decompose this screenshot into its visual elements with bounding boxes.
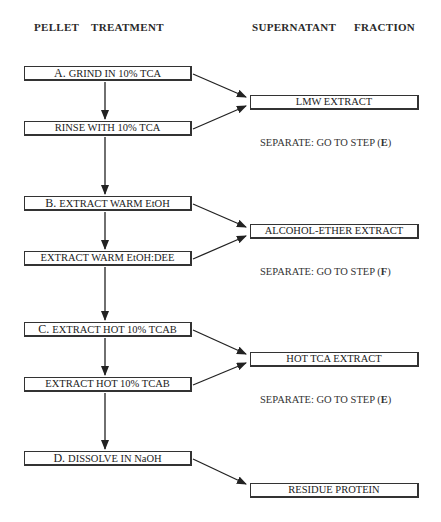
extract-etoh-dee-box: EXTRACT WARM EtOH:DEE [24, 251, 192, 266]
extract-hot-tcab-box: EXTRACT HOT 10% TCAB [24, 377, 192, 392]
lmw-extract-box: LMW EXTRACT [250, 95, 419, 110]
residue-protein-box: RESIDUE PROTEIN [250, 483, 419, 498]
step-c-extract-box: C.EXTRACT HOT 10% TCAB [24, 322, 192, 337]
fraction-text: ALCOHOL-ETHER EXTRACT [265, 225, 404, 236]
step-text: EXTRACT WARM EtOH:DEE [41, 252, 175, 263]
step-text: GRIND IN 10% TCA [69, 68, 161, 79]
separate-note-e-2: SEPARATE: GO TO STEP (E) [260, 394, 391, 405]
hot-tca-extract-box: HOT TCA EXTRACT [250, 352, 419, 367]
step-text: RINSE WITH 10% TCA [55, 122, 160, 133]
step-d-dissolve-box: D.DISSOLVE IN NaOH [24, 451, 192, 466]
step-text: EXTRACT HOT 10% TCAB [52, 324, 177, 335]
step-label: A. [54, 66, 66, 80]
step-text: DISSOLVE IN NaOH [68, 453, 162, 464]
rinse-box: RINSE WITH 10% TCA [24, 121, 192, 136]
step-a-grind-box: A.GRIND IN 10% TCA [24, 66, 192, 81]
step-label: C. [38, 322, 49, 336]
fraction-text: LMW EXTRACT [296, 96, 373, 107]
fraction-text: RESIDUE PROTEIN [288, 484, 379, 495]
step-text: EXTRACT HOT 10% TCAB [45, 378, 170, 389]
separate-note-e-1: SEPARATE: GO TO STEP (E) [260, 137, 391, 148]
step-text: EXTRACT WARM EtOH [59, 198, 169, 209]
step-label: B. [45, 196, 56, 210]
fraction-text: HOT TCA EXTRACT [286, 353, 381, 364]
step-b-extract-box: B.EXTRACT WARM EtOH [24, 196, 192, 211]
alcohol-ether-extract-box: ALCOHOL-ETHER EXTRACT [250, 224, 419, 239]
step-label: D. [53, 451, 65, 465]
separate-note-f: SEPARATE: GO TO STEP (F) [260, 266, 391, 277]
